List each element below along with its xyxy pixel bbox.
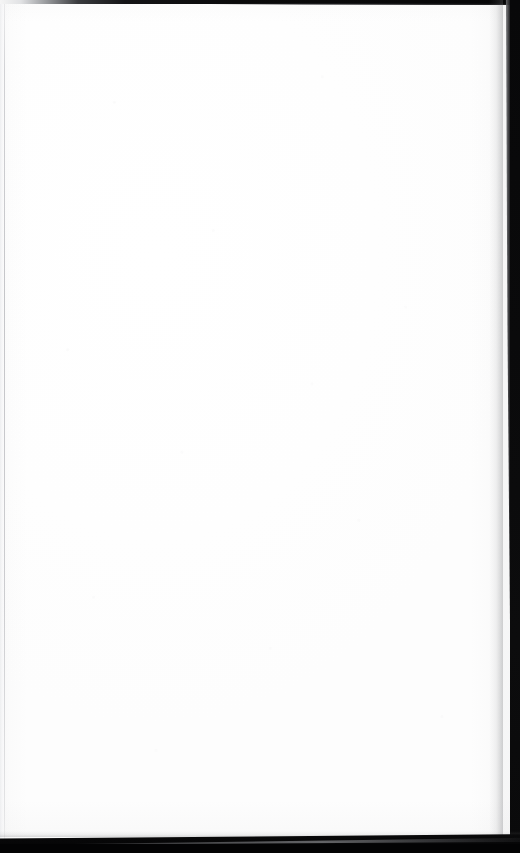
left-page-hairline — [4, 2, 5, 851]
right-dark-band-core — [510, 0, 520, 853]
right-band-feather — [489, 0, 503, 853]
page-content-area — [6, 6, 500, 832]
top-edge-skew-line — [210, 3, 520, 5]
scanned-page — [0, 0, 520, 853]
bottom-band-baseline — [0, 844, 520, 853]
